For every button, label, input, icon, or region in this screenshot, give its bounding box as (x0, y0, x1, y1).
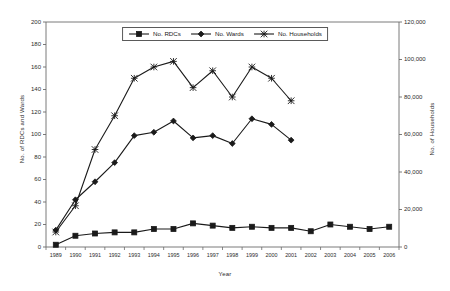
series-line (56, 61, 291, 232)
data-point-marker (73, 233, 78, 238)
series-line (56, 119, 291, 230)
data-point-marker (387, 224, 392, 229)
data-point-marker (53, 229, 60, 236)
data-point-marker (190, 84, 197, 91)
series-no-rdcs (53, 221, 391, 247)
legend-marker (137, 32, 142, 37)
data-point-marker (347, 224, 352, 229)
data-point-marker (112, 230, 117, 235)
data-point-marker (367, 227, 372, 232)
series-line (56, 223, 389, 244)
data-point-marker (249, 64, 256, 71)
data-point-marker (308, 229, 313, 234)
data-point-marker (269, 225, 274, 230)
data-point-marker (53, 242, 58, 247)
cross-marker-icon (253, 30, 275, 38)
data-point-marker (151, 64, 158, 71)
data-point-marker (170, 58, 177, 65)
series-no-households (53, 58, 295, 235)
data-point-marker (132, 230, 137, 235)
data-point-marker (191, 221, 196, 226)
data-point-marker (230, 225, 235, 230)
data-point-marker (93, 231, 98, 236)
legend-item-no-wards[interactable]: No. Wards (190, 30, 244, 38)
data-point-marker (249, 224, 254, 229)
legend-item-no-households[interactable]: No. Households (253, 30, 322, 38)
data-point-marker (209, 67, 216, 74)
data-point-marker (328, 222, 333, 227)
diamond-marker-icon (190, 30, 212, 38)
data-point-marker (131, 75, 138, 82)
chart-container: No. of RDCs and Wards No. of Households … (0, 0, 450, 291)
legend-marker (261, 31, 268, 38)
square-marker-icon (128, 30, 150, 38)
data-point-marker (288, 97, 295, 104)
legend-item-label: No. Households (278, 31, 322, 37)
data-point-marker (268, 75, 275, 82)
data-point-marker (171, 227, 176, 232)
legend-item-label: No. RDCs (153, 31, 181, 37)
data-point-marker (111, 112, 118, 119)
data-point-marker (229, 94, 236, 101)
data-point-marker (210, 133, 216, 139)
plot-area (0, 0, 450, 291)
data-point-marker (151, 129, 157, 135)
data-point-marker (92, 146, 99, 153)
data-point-marker (210, 223, 215, 228)
legend-item-label: No. Wards (215, 31, 244, 37)
legend-marker (198, 31, 204, 37)
data-point-marker (289, 225, 294, 230)
series-no-wards (53, 116, 294, 233)
data-point-marker (151, 227, 156, 232)
chart-legend: No. RDCsNo. WardsNo. Households (122, 27, 328, 41)
legend-item-no-rdcs[interactable]: No. RDCs (128, 30, 181, 38)
data-point-marker (72, 202, 79, 209)
